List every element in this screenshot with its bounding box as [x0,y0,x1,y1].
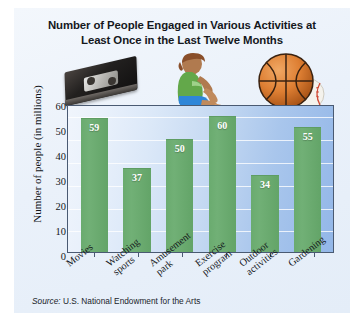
y-tick-60: 60 [44,102,66,112]
bar-slot-watching-sports: 37 [116,106,159,252]
figure-panel: Number of People Engaged in Various Acti… [14,8,350,313]
bar-value-outdoor-activities: 34 [251,179,278,190]
bar-movies[interactable]: 59 [81,118,108,252]
y-tick-50: 50 [44,127,66,137]
source-text: U.S. National Endowment for the Arts [63,296,200,306]
source-prefix: Source: [32,296,61,306]
bar-slot-movies: 59 [73,106,116,252]
chart-title-line-2: Least Once in the Last Twelve Months [30,33,334,48]
bar-value-amusement-park: 50 [166,143,193,154]
bar-value-exercise-program: 60 [209,120,236,131]
bar-gardening[interactable]: 55 [294,127,321,252]
chart-title: Number of People Engaged in Various Acti… [30,18,334,47]
vhs-cassette-icon [62,58,140,104]
y-tick-30: 30 [44,177,66,187]
bar-value-movies: 59 [81,122,108,133]
bar-exercise-program[interactable]: 60 [209,116,236,252]
basketball-icon [257,53,317,109]
y-axis-tick-labels: 60 50 40 30 20 10 0 [44,102,66,252]
bar-slot-exercise-program: 60 [201,106,244,252]
bar-value-gardening: 55 [294,131,321,142]
y-tick-10: 10 [44,227,66,237]
person-doing-situps-icon [162,52,234,110]
bars-layer: 59 37 50 60 34 [68,106,333,252]
plot-area: 59 37 50 60 34 [67,105,334,253]
chart-title-line-1: Number of People Engaged in Various Acti… [30,18,334,33]
bar-slot-gardening: 55 [286,106,329,252]
source-note: Source: U.S. National Endowment for the … [32,296,200,306]
y-tick-20: 20 [44,202,66,212]
bar-slot-outdoor-activities: 34 [244,106,287,252]
bar-slot-amusement-park: 50 [158,106,201,252]
y-axis-title: Number of people (in millions) [31,79,43,229]
y-tick-40: 40 [44,152,66,162]
bar-value-watching-sports: 37 [123,172,150,183]
